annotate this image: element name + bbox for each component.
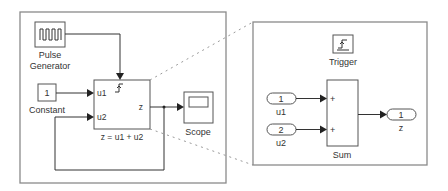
inport-u2-number: 2 bbox=[278, 125, 283, 135]
trigger-label: Trigger bbox=[329, 57, 357, 67]
simulink-diagram: Pulse Generator 1 Constant u1 u2 z z = u… bbox=[0, 0, 448, 191]
trigger-port-block[interactable] bbox=[333, 35, 353, 53]
inport-u2-label: u2 bbox=[276, 138, 286, 148]
subsystem-port-u1: u1 bbox=[97, 88, 107, 98]
inport-u1-number: 1 bbox=[278, 94, 283, 104]
outport-z-number: 1 bbox=[398, 110, 403, 120]
subsystem-port-z: z bbox=[139, 102, 143, 112]
pulse-generator-label-1: Pulse bbox=[39, 50, 62, 60]
sum-label: Sum bbox=[333, 150, 352, 160]
sum-sign-2: + bbox=[330, 125, 335, 135]
outport-z-label: z bbox=[399, 123, 404, 133]
sum-block[interactable]: + + bbox=[327, 80, 358, 146]
scope-block[interactable] bbox=[184, 92, 213, 123]
scope-label: Scope bbox=[185, 127, 211, 137]
constant-value: 1 bbox=[44, 88, 49, 98]
pulse-generator-block[interactable] bbox=[35, 22, 65, 47]
sum-sign-1: + bbox=[330, 94, 335, 104]
subsystem-caption: z = u1 + u2 bbox=[101, 132, 144, 142]
pulse-generator-label-2: Generator bbox=[30, 61, 71, 71]
constant-label: Constant bbox=[29, 105, 66, 115]
scope-screen-icon bbox=[189, 97, 208, 107]
subsystem-port-u2: u2 bbox=[97, 112, 107, 122]
triggered-subsystem-block[interactable]: u1 u2 z bbox=[94, 80, 150, 129]
constant-block[interactable]: 1 bbox=[38, 84, 56, 101]
outport-z[interactable]: 1 bbox=[387, 109, 416, 120]
inport-u2[interactable]: 2 bbox=[267, 124, 296, 135]
inport-u1-label: u1 bbox=[276, 107, 286, 117]
inport-u1[interactable]: 1 bbox=[267, 93, 296, 104]
